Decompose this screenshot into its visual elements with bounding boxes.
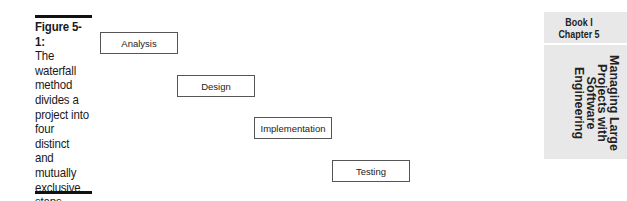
title-line: Software	[585, 55, 597, 151]
title-line: Managing Large	[608, 55, 620, 151]
figure-label: Figure 5-1:	[35, 20, 90, 49]
step-implementation: Implementation	[254, 117, 332, 139]
caption-bottom-rule	[35, 191, 92, 194]
step-label: Design	[201, 81, 231, 92]
figure-caption-text: The waterfall method divides a project i…	[35, 48, 89, 201]
step-analysis: Analysis	[100, 32, 178, 54]
step-label: Implementation	[261, 123, 326, 134]
caption-top-rule	[35, 15, 92, 18]
step-label: Analysis	[121, 38, 156, 49]
chapter-title: Managing Large Projects with Software En…	[573, 55, 619, 151]
book-label: Book I	[549, 16, 609, 28]
title-line: Engineering	[573, 55, 585, 151]
step-label: Testing	[356, 166, 386, 177]
chapter-label: Chapter 5	[549, 28, 609, 40]
chapter-tab: Book I Chapter 5	[544, 12, 627, 43]
step-testing: Testing	[332, 160, 410, 182]
figure-caption: Figure 5-1: The waterfall method divides…	[35, 20, 90, 201]
chapter-title-tab: Managing Large Projects with Software En…	[544, 45, 627, 159]
step-design: Design	[177, 75, 255, 97]
